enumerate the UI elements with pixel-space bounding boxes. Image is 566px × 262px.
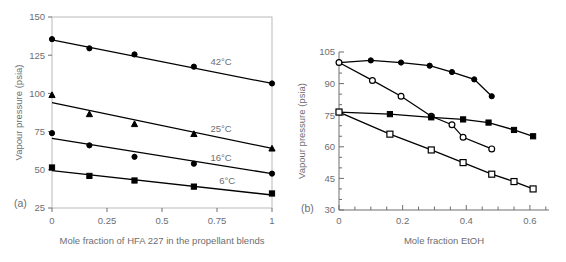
x-axis-label: Mole fraction EtOH [404, 235, 484, 246]
data-point [368, 58, 373, 63]
series-6°C [49, 165, 274, 196]
y-tick-label: 125 [29, 50, 45, 61]
data-polyline [339, 63, 492, 149]
data-point [449, 122, 455, 128]
series-series-2 [336, 60, 495, 152]
data-point [387, 131, 393, 137]
data-point [269, 171, 274, 176]
y-tick-label: 90 [324, 78, 335, 89]
data-point [387, 112, 392, 117]
data-point [511, 179, 517, 185]
series-series-1 [336, 58, 494, 99]
y-axis-label: Vapour pressure (psia) [13, 65, 24, 161]
y-tick-label: 50 [34, 164, 45, 175]
x-tick-label: 0 [336, 215, 341, 226]
data-point [49, 37, 54, 42]
x-tick-label: 0.25 [98, 215, 117, 226]
y-tick-label: 105 [319, 46, 335, 57]
data-point [511, 127, 516, 132]
data-point [449, 69, 454, 74]
y-tick-label: 150 [29, 11, 45, 22]
y-tick-label: 75 [34, 126, 45, 137]
data-point [370, 78, 376, 84]
data-point [132, 52, 137, 57]
series-label-6°C: 6°C [219, 175, 235, 186]
series-25°C [49, 92, 275, 151]
data-point [49, 165, 54, 170]
x-tick-label: 0 [49, 215, 54, 226]
data-point [336, 109, 342, 115]
data-point [489, 94, 494, 99]
data-point [336, 60, 342, 66]
data-point [530, 134, 535, 139]
data-point [489, 171, 495, 177]
data-point [269, 191, 274, 196]
data-polyline [339, 60, 492, 96]
trend-line [52, 138, 272, 173]
panel-b-plot: 304560759010500.20.40.6Mole fraction EtO… [283, 0, 566, 262]
y-tick-label: 25 [34, 202, 45, 213]
trend-line [52, 40, 272, 84]
plot-frame [52, 17, 272, 208]
series-label-42°C: 42°C [210, 56, 231, 67]
series-label-16°C: 16°C [210, 152, 231, 163]
data-point [472, 77, 477, 82]
figure-container: 25507510012515000.250.50.751Mole fractio… [0, 0, 566, 262]
data-point [191, 64, 196, 69]
data-point [486, 120, 491, 125]
series-series-4 [336, 109, 536, 192]
data-point [132, 154, 137, 159]
data-point [398, 93, 404, 99]
data-point [530, 186, 536, 192]
series-42°C [49, 37, 274, 87]
x-tick-label: 0.6 [523, 215, 536, 226]
data-point [131, 121, 137, 127]
data-point [460, 134, 466, 140]
trend-line [52, 103, 272, 149]
data-point [427, 63, 432, 68]
x-axis-label: Mole fraction of HFA 227 in the propella… [60, 235, 265, 246]
data-point [489, 146, 495, 152]
data-point [87, 46, 92, 51]
x-tick-label: 1 [269, 215, 274, 226]
data-point [191, 184, 196, 189]
chart-panel-a: 25507510012515000.250.50.751Mole fractio… [0, 0, 283, 262]
data-point [429, 115, 434, 120]
data-point [428, 147, 434, 153]
data-point [460, 160, 466, 166]
y-tick-label: 60 [324, 141, 335, 152]
data-point [87, 143, 92, 148]
y-tick-label: 45 [324, 173, 335, 184]
x-tick-label: 0.5 [155, 215, 168, 226]
data-polyline [339, 112, 533, 189]
y-tick-label: 30 [324, 204, 335, 215]
data-point [49, 92, 55, 98]
y-axis-label: Vapour pressure (psia) [296, 83, 307, 179]
data-point [132, 178, 137, 183]
y-tick-label: 75 [324, 110, 335, 121]
data-point [191, 161, 196, 166]
series-16°C [49, 131, 274, 177]
trend-line [52, 171, 272, 195]
chart-panel-b: 304560759010500.20.40.6Mole fraction EtO… [283, 0, 566, 262]
data-point [86, 111, 92, 117]
data-point [398, 60, 403, 65]
x-tick-label: 0.2 [396, 215, 409, 226]
panel-b-tag: (b) [301, 202, 314, 214]
y-tick-label: 100 [29, 88, 45, 99]
series-label-25°C: 25°C [210, 123, 231, 134]
data-point [49, 131, 54, 136]
data-point [87, 173, 92, 178]
data-point [460, 117, 465, 122]
panel-a-plot: 25507510012515000.250.50.751Mole fractio… [0, 0, 283, 262]
x-tick-label: 0.4 [460, 215, 473, 226]
x-tick-label: 0.75 [208, 215, 227, 226]
panel-a-tag: (a) [14, 197, 27, 209]
data-point [269, 81, 274, 86]
